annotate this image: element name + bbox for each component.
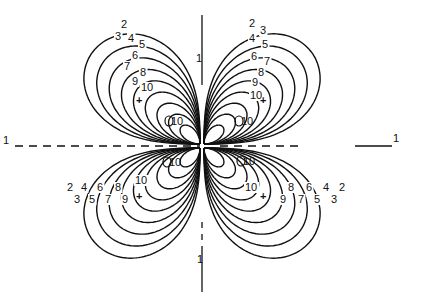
secondary-max-label: 10 — [169, 156, 181, 168]
contour-label: 8 — [288, 181, 294, 193]
contour-label: 4 — [249, 32, 255, 44]
contour-label: 8 — [115, 181, 121, 193]
contour-label: 7 — [298, 193, 304, 205]
contour-label: 2 — [67, 181, 73, 193]
contour-label: 3 — [331, 193, 337, 205]
contour-level-3 — [97, 46, 200, 144]
contour-label: 7 — [124, 60, 130, 72]
contour-label: 6 — [251, 50, 257, 62]
contour-level-2 — [84, 148, 200, 258]
contour-label: 3 — [74, 193, 80, 205]
maximum-plus-marker: + — [260, 190, 266, 202]
contour-label: 7 — [264, 55, 270, 67]
contour-figure: 1 1 1 1 23456789102345678910246835791010… — [0, 0, 421, 305]
contour-label: 4 — [323, 181, 329, 193]
contour-label: 3 — [115, 30, 121, 42]
contour-label: 6 — [97, 181, 103, 193]
contour-label: 8 — [140, 66, 146, 78]
maximum-plus-marker: + — [136, 190, 142, 202]
contour-label: 7 — [105, 193, 111, 205]
secondary-max-label: 10 — [171, 115, 183, 127]
contour-label: 5 — [89, 193, 95, 205]
contour-label: 5 — [139, 38, 145, 50]
contour-label: 10 — [141, 81, 153, 93]
contour-label: 6 — [306, 181, 312, 193]
contour-label: 5 — [314, 193, 320, 205]
contour-label: 8 — [258, 66, 264, 78]
contour-label: 2 — [339, 181, 345, 193]
contour-label: 4 — [128, 32, 134, 44]
axis-label-left: 1 — [3, 134, 9, 146]
maximum-plus-marker: + — [260, 94, 266, 106]
contour-label: 9 — [132, 75, 138, 87]
contour-label: 5 — [262, 38, 268, 50]
contour-label: 10 — [245, 181, 257, 193]
contour-label: 2 — [121, 18, 127, 30]
contour-label: 4 — [81, 181, 87, 193]
maximum-plus-marker: + — [136, 94, 142, 106]
axis-labels: 1 1 1 1 — [3, 52, 399, 265]
contour-level-3 — [204, 148, 307, 246]
contour-label: 9 — [122, 193, 128, 205]
contour-label: 2 — [249, 17, 255, 29]
contour-label: 3 — [260, 24, 266, 36]
contour-plot: 1 1 1 1 23456789102345678910246835791010… — [0, 0, 421, 305]
secondary-max-label: 10 — [241, 115, 253, 127]
contour-label: 10 — [135, 174, 147, 186]
contour-label: 9 — [280, 193, 286, 205]
contour-label: 6 — [132, 49, 138, 61]
contour-label: 9 — [252, 76, 258, 88]
axis-label-bottom: 1 — [197, 253, 203, 265]
secondary-max-label: 10 — [243, 155, 255, 167]
axis-label-top: 1 — [196, 52, 202, 64]
axis-label-right: 1 — [393, 132, 399, 144]
